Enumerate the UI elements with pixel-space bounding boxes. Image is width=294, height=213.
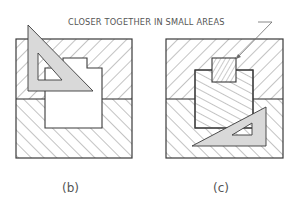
section-lining-diagram: CLOSER TOGETHER IN SMALL AREAS (b) (c) [0, 0, 294, 213]
figure-b [16, 25, 132, 158]
figure-b-label: (b) [62, 181, 79, 195]
figure-c-label: (c) [213, 181, 229, 195]
figure-c [166, 39, 283, 158]
figure-c-small-square-hatch [212, 58, 236, 82]
annotation-text: CLOSER TOGETHER IN SMALL AREAS [68, 17, 225, 27]
